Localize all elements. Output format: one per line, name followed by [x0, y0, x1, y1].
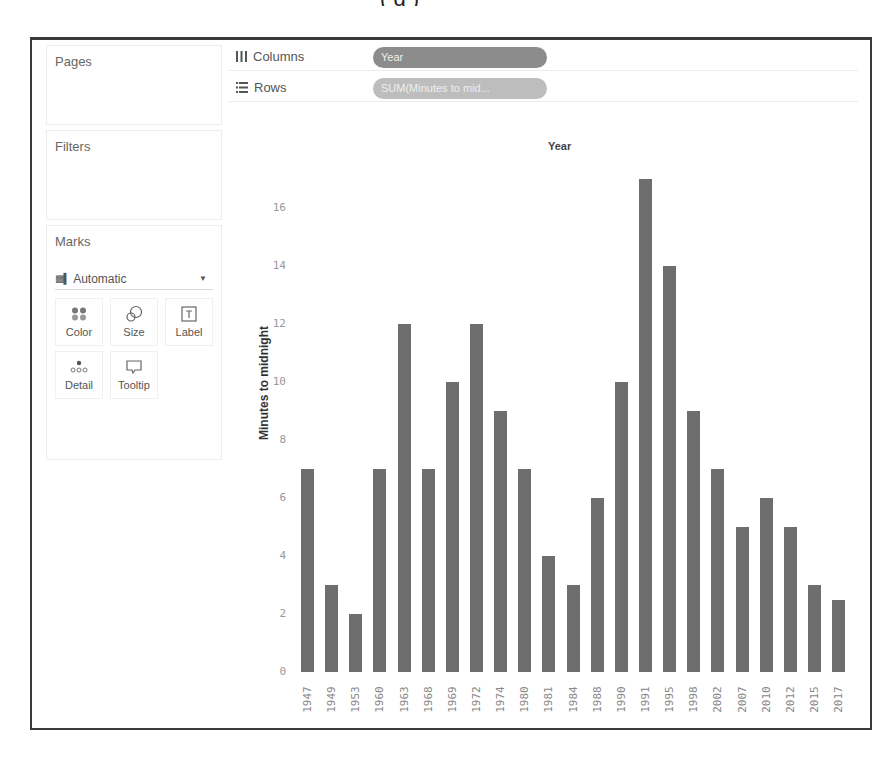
x-tick-text: 2010 [759, 676, 772, 724]
x-tick-text: 1991 [638, 676, 651, 724]
rows-shelf[interactable]: Rows SUM(Minutes to mid... [228, 74, 858, 102]
bar-1949[interactable] [325, 585, 338, 672]
x-tick-label: 1991 [639, 677, 652, 725]
x-tick-label: 1990 [615, 677, 628, 725]
x-tick-label: 2007 [736, 677, 749, 725]
pages-title: Pages [55, 54, 92, 69]
label-text-icon [181, 305, 197, 323]
size-circles-icon [125, 305, 143, 323]
bar-1969[interactable] [446, 382, 459, 672]
bar-1972[interactable] [470, 324, 483, 672]
tableau-worksheet: Pages Filters Marks ▩▍ Automatic ▼ Color [30, 37, 872, 730]
x-tick-label: 1998 [687, 677, 700, 725]
color-label: Color [66, 326, 92, 338]
bar-1980[interactable] [518, 469, 531, 672]
x-tick-text: 2012 [783, 676, 796, 724]
bar-1968[interactable] [422, 469, 435, 672]
tooltip-button[interactable]: Tooltip [110, 351, 158, 399]
y-tick-label: 16 [264, 201, 286, 214]
x-tick-text: 1949 [325, 676, 338, 724]
bar-1963[interactable] [398, 324, 411, 672]
label-button[interactable]: Label [165, 298, 213, 346]
bar-chart-mark-icon: ▩▍ [55, 273, 70, 284]
x-tick-text: 1960 [373, 676, 386, 724]
x-tick-text: 1981 [542, 676, 555, 724]
rows-shelf-label: Rows [236, 80, 287, 95]
bar-1981[interactable] [542, 556, 555, 672]
x-tick-label: 1988 [591, 677, 604, 725]
x-tick-label: 2010 [760, 677, 773, 725]
label-label: Label [176, 326, 203, 338]
y-tick-label: 10 [264, 375, 286, 388]
x-tick-label: 1947 [301, 677, 314, 725]
y-tick-label: 12 [264, 317, 286, 330]
y-tick-label: 8 [264, 433, 286, 446]
x-tick-label: 1953 [349, 677, 362, 725]
size-label: Size [123, 326, 144, 338]
x-tick-label: 1972 [470, 677, 483, 725]
bar-1953[interactable] [349, 614, 362, 672]
columns-icon [236, 51, 247, 62]
x-tick-text: 1984 [566, 676, 579, 724]
size-button[interactable]: Size [110, 298, 158, 346]
color-dots-icon [71, 305, 87, 323]
bar-1984[interactable] [567, 585, 580, 672]
tooltip-icon [125, 358, 143, 376]
bar-1991[interactable] [639, 179, 652, 672]
year-pill[interactable]: Year [373, 47, 547, 68]
x-tick-text: 1969 [445, 676, 458, 724]
bar-2015[interactable] [808, 585, 821, 672]
bar-1988[interactable] [591, 498, 604, 672]
x-tick-label: 1981 [542, 677, 555, 725]
x-tick-label: 1995 [663, 677, 676, 725]
x-tick-label: 1969 [446, 677, 459, 725]
bar-2010[interactable] [760, 498, 773, 672]
y-tick-label: 6 [264, 491, 286, 504]
x-tick-text: 1990 [614, 676, 627, 724]
chart-column-header: Year [548, 140, 571, 152]
chevron-down-icon: ▼ [199, 274, 207, 283]
bar-1995[interactable] [663, 266, 676, 672]
columns-shelf-label: Columns [236, 49, 304, 64]
x-tick-text: 1968 [421, 676, 434, 724]
color-button[interactable]: Color [55, 298, 103, 346]
bar-1990[interactable] [615, 382, 628, 672]
bar-2012[interactable] [784, 527, 797, 672]
bar-1947[interactable] [301, 469, 314, 672]
cutoff-caption: ( g ) [380, 0, 893, 6]
columns-label-text: Columns [253, 49, 304, 64]
x-tick-label: 1968 [422, 677, 435, 725]
x-tick-text: 1947 [301, 676, 314, 724]
mark-type-dropdown[interactable]: ▩▍ Automatic ▼ [55, 268, 213, 290]
bar-2017[interactable] [832, 600, 845, 673]
x-tick-label: 2012 [784, 677, 797, 725]
mark-type-value: Automatic [73, 272, 126, 286]
columns-shelf[interactable]: Columns Year [228, 43, 858, 71]
bar-1974[interactable] [494, 411, 507, 672]
x-tick-text: 2002 [711, 676, 724, 724]
pages-card[interactable]: Pages [46, 45, 222, 125]
x-tick-text: 2015 [807, 676, 820, 724]
bar-1960[interactable] [373, 469, 386, 672]
bar-1998[interactable] [687, 411, 700, 672]
y-tick-label: 14 [264, 259, 286, 272]
minutes-to-midnight-pill[interactable]: SUM(Minutes to mid... [373, 78, 547, 99]
x-tick-text: 1963 [397, 676, 410, 724]
rows-label-text: Rows [254, 80, 287, 95]
bar-2007[interactable] [736, 527, 749, 672]
x-tick-label: 1980 [518, 677, 531, 725]
marks-card: Marks ▩▍ Automatic ▼ Color Size [46, 225, 222, 460]
detail-button[interactable]: Detail [55, 351, 103, 399]
bar-2002[interactable] [711, 469, 724, 672]
x-tick-text: 1998 [687, 676, 700, 724]
x-tick-text: 1974 [494, 676, 507, 724]
x-tick-label: 1963 [398, 677, 411, 725]
x-tick-label: 2002 [711, 677, 724, 725]
x-tick-text: 2007 [735, 676, 748, 724]
x-tick-label: 1984 [567, 677, 580, 725]
detail-label: Detail [65, 379, 93, 391]
rows-icon [236, 82, 248, 93]
filters-card[interactable]: Filters [46, 130, 222, 220]
bar-chart: Year Minutes to midnight 0246810121416 1… [228, 126, 868, 728]
detail-icon [70, 358, 88, 376]
